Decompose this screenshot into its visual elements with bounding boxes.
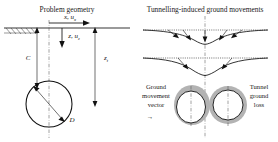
movement-vectors-upper [168, 30, 242, 43]
tunnel-diameter-label: D [68, 116, 74, 124]
ground-loss-line1: Tunnel [250, 83, 269, 90]
panel-ground-movements: Tunnelling-induced ground movements [142, 5, 269, 138]
movement-vector-line3: vector [148, 101, 165, 108]
cover-depth-label: C [26, 54, 31, 62]
axis-depth-dimension [93, 27, 98, 107]
tunnel-ground-loss-ring [209, 86, 247, 126]
z-axis-arrow [59, 28, 64, 48]
z-axis-label: z, uz [67, 32, 80, 41]
axis-depth-label: zt [103, 54, 109, 63]
ground-movement-vector-caption: Ground movement vector → [142, 83, 170, 120]
ground-loss-line3: loss [254, 101, 265, 108]
panel-title-ground-movements: Tunnelling-induced ground movements [147, 5, 264, 14]
movement-vector-arrow-glyph: → [147, 113, 154, 120]
ground-hatching [4, 28, 38, 34]
settlement-trough-upper [143, 30, 268, 44]
ground-loss-line2: ground [250, 92, 269, 99]
panel-problem-geometry: Problem geometry x, ux z, uz [4, 5, 130, 138]
movement-vector-line1: Ground [146, 83, 167, 90]
cover-depth-dimension [35, 27, 40, 89]
settlement-trough-lower [143, 58, 268, 76]
movement-vector-line2: movement [142, 92, 170, 99]
x-axis-label: x, ux [63, 13, 77, 22]
tunnel-ground-loss-caption: Tunnel ground loss [250, 83, 269, 108]
ovalised-tunnel-ring [174, 85, 210, 126]
tunnelling-figure: Problem geometry x, ux z, uz [0, 0, 278, 142]
x-axis-arrow [49, 20, 90, 25]
